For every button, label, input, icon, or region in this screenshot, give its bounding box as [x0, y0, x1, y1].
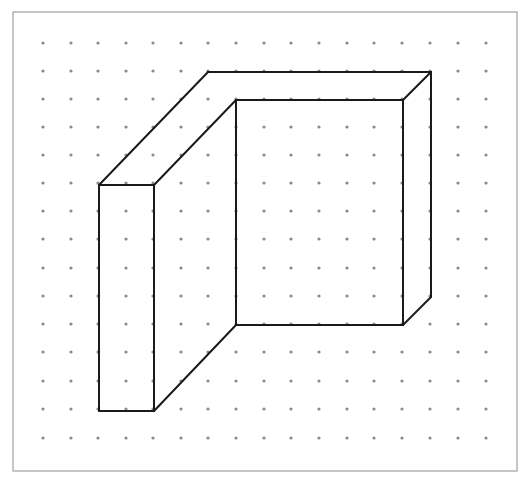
grid-dot — [69, 181, 72, 184]
grid-dot — [41, 379, 44, 382]
grid-dot — [484, 322, 487, 325]
grid-dot — [262, 41, 265, 44]
grid-dot — [289, 379, 292, 382]
grid-dot — [345, 266, 348, 269]
grid-dot — [206, 322, 209, 325]
grid-dot — [400, 407, 403, 410]
grid-dot — [345, 350, 348, 353]
grid-dot — [69, 436, 72, 439]
shape-edge — [154, 100, 236, 185]
grid-dot — [484, 209, 487, 212]
grid-dot — [69, 97, 72, 100]
grid-dot — [428, 436, 431, 439]
grid-dot — [372, 181, 375, 184]
grid-dot — [69, 294, 72, 297]
grid-dot — [69, 153, 72, 156]
grid-dot — [262, 181, 265, 184]
grid-dot — [206, 436, 209, 439]
grid-dot — [69, 322, 72, 325]
grid-dot — [372, 237, 375, 240]
grid-dot — [317, 294, 320, 297]
grid-dot — [484, 181, 487, 184]
grid-dot — [372, 209, 375, 212]
grid-dot — [289, 125, 292, 128]
grid-dot — [317, 41, 320, 44]
shape-edge — [154, 325, 236, 411]
grid-dot — [124, 69, 127, 72]
grid-dot — [428, 41, 431, 44]
grid-dot — [179, 322, 182, 325]
grid-dot — [262, 379, 265, 382]
grid-dot — [179, 69, 182, 72]
grid-dot — [41, 125, 44, 128]
grid-dot — [69, 379, 72, 382]
grid-dot — [289, 350, 292, 353]
grid-dot — [179, 294, 182, 297]
grid-dot — [456, 294, 459, 297]
grid-dot — [124, 266, 127, 269]
grid-dot — [69, 407, 72, 410]
grid-dot — [456, 407, 459, 410]
grid-dot — [484, 237, 487, 240]
grid-dot — [262, 237, 265, 240]
grid-dot — [41, 436, 44, 439]
grid-dot — [289, 209, 292, 212]
grid-dot — [262, 407, 265, 410]
grid-dot — [456, 69, 459, 72]
grid-dot — [372, 153, 375, 156]
grid-dot — [179, 407, 182, 410]
grid-dot — [317, 350, 320, 353]
grid-dot — [428, 322, 431, 325]
grid-dot — [151, 153, 154, 156]
grid-dot — [484, 125, 487, 128]
grid-dot — [262, 153, 265, 156]
grid-dot — [96, 153, 99, 156]
grid-dot — [124, 237, 127, 240]
grid-dot — [317, 237, 320, 240]
grid-dot — [345, 407, 348, 410]
grid-dot — [124, 294, 127, 297]
grid-dot — [289, 153, 292, 156]
grid-dot — [289, 407, 292, 410]
grid-dot — [69, 350, 72, 353]
grid-dot — [41, 237, 44, 240]
grid-dot — [69, 266, 72, 269]
grid-dot — [262, 350, 265, 353]
grid-dot — [484, 294, 487, 297]
grid-dot — [179, 209, 182, 212]
grid-dot — [289, 181, 292, 184]
grid-dot — [234, 379, 237, 382]
isometric-dot-grid-figure — [0, 0, 528, 485]
grid-dot — [124, 125, 127, 128]
grid-dot — [96, 97, 99, 100]
grid-dot — [179, 436, 182, 439]
grid-dot — [372, 407, 375, 410]
grid-dot — [484, 266, 487, 269]
grid-dot — [484, 436, 487, 439]
grid-dot — [206, 97, 209, 100]
grid-dot — [69, 41, 72, 44]
grid-dot — [41, 97, 44, 100]
grid-dot — [317, 153, 320, 156]
grid-dot — [317, 407, 320, 410]
grid-dot — [69, 125, 72, 128]
grid-dot — [262, 436, 265, 439]
grid-dot — [372, 41, 375, 44]
grid-dot — [262, 125, 265, 128]
grid-dot — [41, 294, 44, 297]
grid-dot — [345, 181, 348, 184]
grid-dot — [428, 379, 431, 382]
grid-dot — [484, 379, 487, 382]
grid-dot — [484, 153, 487, 156]
grid-dot — [289, 237, 292, 240]
grid-dot — [41, 69, 44, 72]
grid-dot — [206, 237, 209, 240]
grid-dot — [262, 294, 265, 297]
grid-dot — [41, 153, 44, 156]
grid-dot — [456, 350, 459, 353]
grid-dot — [456, 322, 459, 325]
grid-dot — [345, 209, 348, 212]
grid-dot — [206, 266, 209, 269]
grid-dot — [234, 407, 237, 410]
grid-dot — [484, 407, 487, 410]
